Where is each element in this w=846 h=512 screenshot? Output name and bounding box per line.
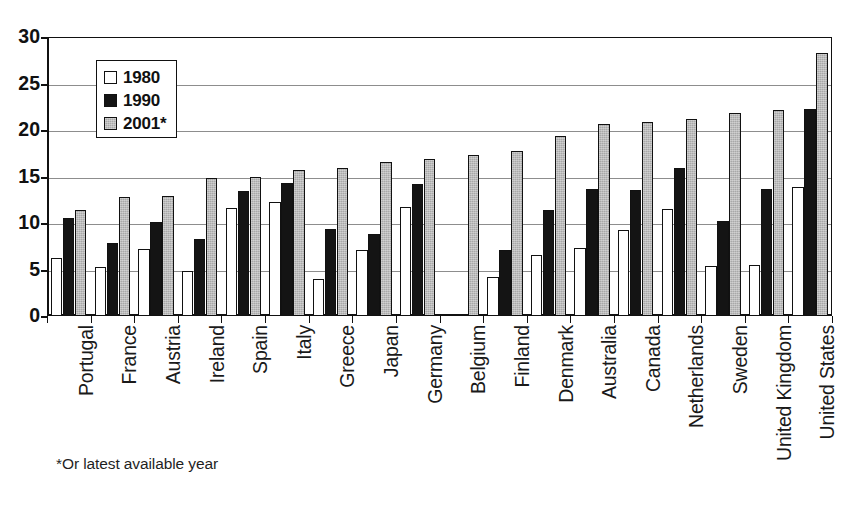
x-axis-label: Greece [338,325,358,388]
y-tick-label: 5 [0,260,40,280]
bar [816,53,827,316]
bar [356,250,367,316]
bar [119,197,130,316]
bar-chart: 051015202530 PortugalFranceAustriaIrelan… [0,0,846,512]
x-axis-label: Canada [644,325,664,392]
bar [107,243,118,316]
y-tick-label: 0 [0,306,40,326]
bar [63,218,74,316]
legend-item-1990: 1990 [104,89,176,112]
x-axis-label: Denmark [557,325,577,403]
chart-legend: 1980 1990 2001* [96,60,177,138]
bar [138,249,149,316]
bar [269,202,280,316]
x-axis-label: Netherlands [687,325,707,428]
bar-group [47,37,91,316]
x-axis-label: Japan [382,325,402,377]
bar-group [178,37,222,316]
bar-group [221,37,265,316]
x-axis-label: Belgium [469,325,489,394]
bar [618,230,629,316]
x-tick-mark [352,316,353,323]
bar [773,110,784,316]
bar [487,277,498,316]
x-tick-mark [832,316,833,323]
bar-group [658,37,702,316]
bar [150,222,161,316]
legend-label-1990: 1990 [123,92,160,109]
x-axis-label: Sweden [731,325,751,394]
x-axis-label: Portugal [77,325,97,396]
bar [792,187,803,316]
x-tick-mark [527,316,528,323]
x-axis-label: Italy [295,325,315,360]
bar [468,155,479,316]
x-tick-mark [396,316,397,323]
bar [194,239,205,316]
bar [749,265,760,316]
bar [729,113,740,316]
x-tick-mark [745,316,746,323]
x-tick-mark [614,316,615,323]
bar [226,208,237,316]
bar [586,189,597,316]
x-axis-label: France [120,325,140,385]
bar-group [745,37,789,316]
x-axis-label: United Kingdom [775,325,795,461]
bar [674,168,685,316]
bar [337,168,348,316]
bar-group [483,37,527,316]
x-tick-mark [91,316,92,323]
bar-group [614,37,658,316]
bar [511,151,522,316]
legend-item-2001: 2001* [104,112,176,135]
x-tick-mark [658,316,659,323]
y-tick-label: 15 [0,167,40,187]
legend-swatch-2001-icon [104,117,117,130]
x-axis-label: Ireland [208,325,228,383]
bar [705,266,716,316]
bar [804,109,815,316]
bar [281,183,292,316]
bar [761,189,772,316]
bar [250,177,261,317]
bar-group [265,37,309,316]
bar-group [352,37,396,316]
x-tick-mark [788,316,789,323]
x-tick-mark [440,316,441,323]
legend-label-2001: 2001* [123,115,166,132]
bar [574,248,585,316]
bar [206,178,217,316]
x-tick-mark [178,316,179,323]
bar-group [309,37,353,316]
bar [555,136,566,316]
legend-swatch-1980-icon [104,71,117,84]
bar [424,159,435,316]
bar [531,255,542,316]
x-tick-mark [701,316,702,323]
bar-group [527,37,571,316]
y-tick-label: 20 [0,120,40,140]
x-axis-label: Australia [600,325,620,399]
x-tick-mark [47,316,48,323]
x-tick-mark [483,316,484,323]
bar [380,162,391,316]
x-tick-mark [134,316,135,323]
bar [75,210,86,316]
legend-swatch-1990-icon [104,94,117,107]
legend-label-1980: 1980 [123,69,160,86]
x-axis-label: Spain [251,325,271,374]
bar-group [440,37,484,316]
x-tick-mark [265,316,266,323]
bar [642,122,653,316]
bar [686,119,697,316]
bar [51,258,62,316]
bar [313,279,324,316]
legend-item-1980: 1980 [104,66,176,89]
y-tick-label: 25 [0,74,40,94]
bar [95,267,106,316]
bar [293,170,304,316]
y-tick-label: 30 [0,27,40,47]
bar-group [570,37,614,316]
x-tick-mark [221,316,222,323]
